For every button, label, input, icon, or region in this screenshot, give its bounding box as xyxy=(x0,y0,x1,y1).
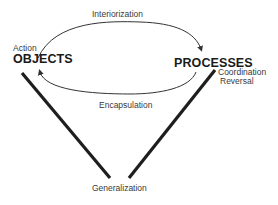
generalization-label: Generalization xyxy=(92,183,147,193)
reversal-label: Reversal xyxy=(220,76,254,86)
encapsulation-arrow xyxy=(40,72,196,94)
encapsulation-label: Encapsulation xyxy=(99,100,152,110)
interiorization-label: Interiorization xyxy=(92,9,143,19)
objects-node: OBJECTS xyxy=(13,52,73,66)
right-generalization-line xyxy=(129,70,215,178)
apos-diagram: Interiorization Action OBJECTS PROCESSES… xyxy=(0,0,278,205)
